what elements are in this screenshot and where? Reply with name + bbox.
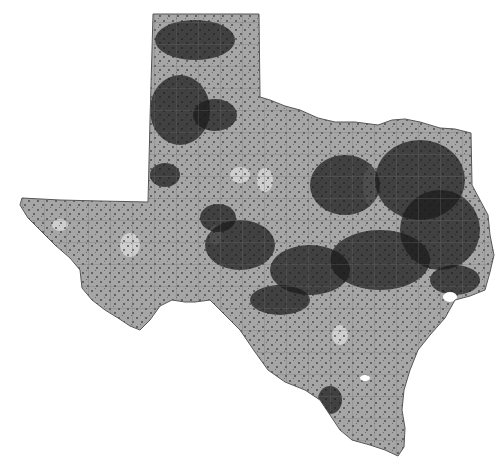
county-boundaries <box>0 0 504 472</box>
map-canvas <box>0 0 504 472</box>
state-fill-group <box>0 0 504 472</box>
texas-map <box>0 0 504 472</box>
corpus-christi-bay <box>360 375 370 381</box>
